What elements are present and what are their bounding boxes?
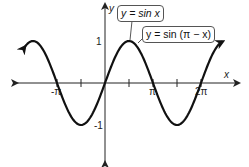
callout-sin-pi-minus-x: y = sin (π − x) (142, 26, 215, 43)
callout-leader-1 (130, 21, 132, 40)
callout-sin-x: y = sin x (117, 5, 164, 22)
tick-label-y1: 1 (96, 36, 102, 47)
callout-sin-pi-minus-x-text: y = sin (π − x) (146, 28, 211, 40)
tick-label-ym1: -1 (94, 120, 103, 131)
x-axis-label: x (223, 69, 230, 80)
y-axis-label: y (108, 3, 115, 14)
chart-canvas: -π π 2π 1 -1 x y (0, 0, 249, 167)
callout-sin-x-text: y = sin x (121, 7, 160, 19)
